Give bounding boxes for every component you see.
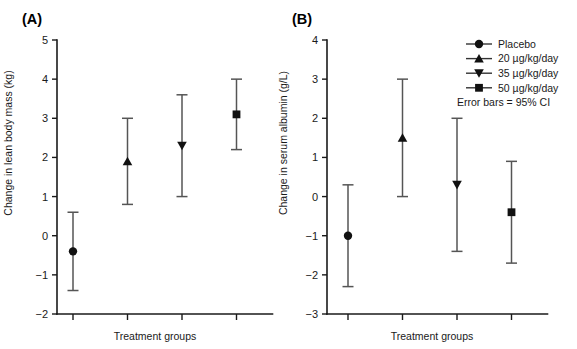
legend-entry: 50 µg/kg/day bbox=[466, 82, 559, 94]
legend-entry-label: 20 µg/kg/day bbox=[498, 52, 559, 64]
data-marker-circle bbox=[344, 232, 352, 240]
panel-a-y-axis-title: Change in lean body mass (kg) bbox=[2, 70, 14, 215]
panel-a-plot-area: −2−1012345 bbox=[35, 34, 272, 320]
chart-legend: Placebo20 µg/kg/day35 µg/kg/day50 µg/kg/… bbox=[457, 38, 559, 109]
y-tick-label: −3 bbox=[305, 308, 318, 320]
data-point-group bbox=[506, 161, 517, 263]
y-tick-label: 0 bbox=[312, 191, 318, 203]
data-marker-square bbox=[475, 84, 483, 92]
y-tick-label: 4 bbox=[312, 34, 318, 46]
y-tick-label: 5 bbox=[42, 34, 48, 46]
data-marker-triangle-up bbox=[123, 157, 133, 166]
legend-entry: 35 µg/kg/day bbox=[466, 67, 559, 79]
data-marker-square bbox=[508, 208, 516, 216]
panel-a: (A) −2−1012345 Change in lean body mass … bbox=[2, 11, 273, 342]
legend-note: Error bars = 95% CI bbox=[457, 96, 550, 108]
panel-b-x-axis-title: Treatment groups bbox=[391, 330, 473, 342]
data-marker-square bbox=[233, 110, 241, 118]
y-tick-label: −1 bbox=[305, 230, 318, 242]
data-point-group bbox=[231, 79, 242, 149]
legend-entry: Placebo bbox=[466, 38, 536, 50]
data-point-group bbox=[452, 118, 463, 251]
y-tick-label: 2 bbox=[42, 151, 48, 163]
data-point-group bbox=[397, 79, 408, 196]
panel-b-label: (B) bbox=[292, 11, 312, 27]
data-marker-circle bbox=[69, 247, 77, 255]
figure-root: (A) −2−1012345 Change in lean body mass … bbox=[0, 0, 577, 349]
y-tick-label: 3 bbox=[312, 73, 318, 85]
data-point-group bbox=[122, 118, 133, 204]
data-marker-triangle-down bbox=[177, 142, 187, 151]
data-point-group bbox=[177, 95, 188, 197]
legend-entry-label: Placebo bbox=[498, 38, 536, 50]
y-tick-label: 1 bbox=[42, 191, 48, 203]
legend-entry-label: 50 µg/kg/day bbox=[498, 82, 559, 94]
y-tick-label: 4 bbox=[42, 73, 48, 85]
y-tick-label: 3 bbox=[42, 112, 48, 124]
data-point-group bbox=[343, 185, 354, 287]
y-tick-label: −1 bbox=[35, 269, 48, 281]
data-marker-triangle-up bbox=[398, 133, 408, 142]
data-point-group bbox=[68, 212, 79, 290]
legend-entry: 20 µg/kg/day bbox=[466, 52, 559, 64]
legend-entry-label: 35 µg/kg/day bbox=[498, 67, 559, 79]
y-tick-label: 0 bbox=[42, 230, 48, 242]
data-marker-circle bbox=[475, 40, 483, 48]
y-tick-label: 1 bbox=[312, 151, 318, 163]
y-tick-label: −2 bbox=[35, 308, 48, 320]
y-tick-label: −2 bbox=[305, 269, 318, 281]
panel-a-label: (A) bbox=[22, 11, 42, 27]
panel-b-y-axis-title: Change in serum albumin (g/L) bbox=[277, 71, 289, 215]
y-tick-label: 2 bbox=[312, 112, 318, 124]
panel-a-x-axis-title: Treatment groups bbox=[114, 330, 196, 342]
data-marker-triangle-down bbox=[452, 181, 462, 190]
